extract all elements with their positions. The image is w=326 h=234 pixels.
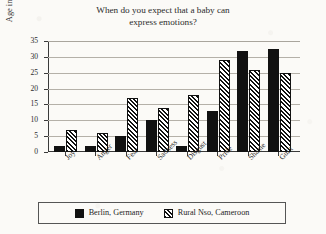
y-tick-10: 10 — [44, 120, 48, 121]
y-tick-label-30: 30 — [30, 53, 38, 61]
bar-guilt-series-2 — [280, 73, 291, 152]
bar-fear-series-1 — [115, 136, 126, 152]
bar-joy-series-1 — [54, 146, 65, 152]
legend-entry-1: Berlin, Germany — [75, 209, 144, 218]
plot-area: 05101520253035 JoyAngerFearSadnessDisgus… — [48, 41, 292, 152]
y-tick-25: 25 — [44, 73, 48, 74]
bar-sadness-series-1 — [146, 120, 157, 152]
y-tick-label-5: 5 — [34, 132, 38, 140]
chart-title-line-2: express emotions? — [0, 16, 326, 28]
bar-shame-series-1 — [237, 51, 248, 152]
legend-swatch-2 — [164, 209, 173, 218]
bar-pride-series-1 — [207, 111, 218, 152]
y-tick-label-10: 10 — [30, 116, 38, 124]
bar-group-sadness: Sadness — [144, 41, 171, 152]
y-axis-title: Age in months — [4, 0, 16, 53]
bar-guilt-series-1 — [268, 49, 279, 152]
legend-label-2: Rural Nso, Cameroon — [178, 209, 250, 217]
legend-entry-2: Rural Nso, Cameroon — [164, 209, 250, 218]
y-tick-label-25: 25 — [30, 69, 38, 77]
bar-group-pride: Pride — [205, 41, 232, 152]
y-tick-label-20: 20 — [30, 85, 38, 93]
chart-figure: When do you expect that a baby can expre… — [0, 0, 326, 234]
bar-group-shame: Shame — [235, 41, 262, 152]
y-tick-label-0: 0 — [34, 148, 38, 156]
bar-disgust-series-1 — [176, 146, 187, 152]
y-tick-label-15: 15 — [30, 101, 38, 109]
bar-group-anger: Anger — [83, 41, 110, 152]
legend-swatch-1 — [75, 209, 84, 218]
bar-anger-series-1 — [85, 146, 96, 152]
bar-group-guilt: Guilt — [266, 41, 293, 152]
y-tick-35: 35 — [44, 41, 48, 42]
bar-group-fear: Fear — [113, 41, 140, 152]
chart-legend: Berlin, GermanyRural Nso, Cameroon — [38, 202, 286, 224]
y-tick-20: 20 — [44, 89, 48, 90]
y-tick-label-35: 35 — [30, 37, 38, 45]
y-tick-30: 30 — [44, 57, 48, 58]
y-tick-0: 0 — [44, 152, 48, 153]
bar-group-joy: Joy — [52, 41, 79, 152]
chart-title-line-1: When do you expect that a baby can — [0, 4, 326, 16]
chart-title: When do you expect that a baby can expre… — [0, 4, 326, 28]
y-tick-5: 5 — [44, 136, 48, 137]
legend-label-1: Berlin, Germany — [89, 209, 144, 217]
bar-group-disgust: Disgust — [174, 41, 201, 152]
y-tick-15: 15 — [44, 104, 48, 105]
bar-fear-series-2 — [127, 98, 138, 152]
bar-shame-series-2 — [249, 70, 260, 152]
bar-pride-series-2 — [219, 60, 230, 152]
